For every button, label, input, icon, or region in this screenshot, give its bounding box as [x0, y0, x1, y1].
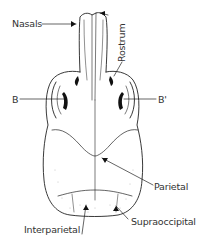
label-interparietal: Interparietal [24, 225, 80, 235]
label-nasals: Nasals [12, 19, 42, 29]
label-supraoccipital: Supraoccipital [131, 217, 196, 227]
label-b-prime: B' [158, 95, 167, 105]
skull-illustration [0, 0, 208, 246]
label-rostrum: Rostrum [117, 24, 127, 62]
skull-diagram: Nasals Rostrum B B' Parietal Interpariet… [0, 0, 208, 246]
label-parietal: Parietal [154, 182, 188, 192]
label-b: B [12, 95, 18, 105]
